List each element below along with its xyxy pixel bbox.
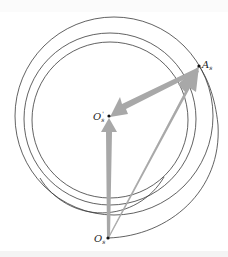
point-os-prime	[107, 114, 110, 117]
label-os: Os	[94, 233, 105, 245]
spiral-arc	[108, 66, 218, 238]
label-os-prime: Os'	[93, 110, 104, 123]
point-os	[106, 236, 109, 239]
point-as	[197, 64, 200, 67]
label-as: As	[201, 59, 212, 71]
arrow-os-to-osprime	[101, 118, 117, 238]
clipped-caption-strip	[0, 251, 228, 257]
geometry-diagram: Os' As Os	[0, 0, 228, 257]
inner-partial-arc	[40, 177, 164, 213]
faint-background-strip	[0, 0, 228, 12]
